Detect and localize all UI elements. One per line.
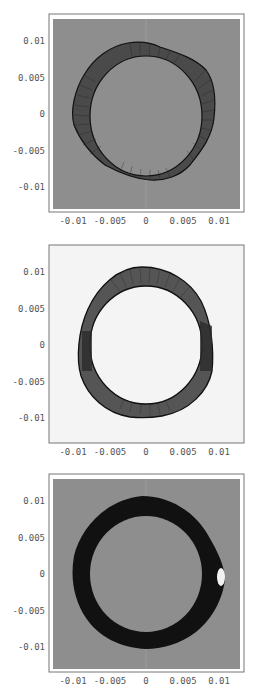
contour-plot-1: 0.01 0.005 0 -0.005 -0.01 -0.01 -0.005 0… (0, 0, 257, 230)
svg-text:0.005: 0.005 (18, 533, 45, 543)
svg-text:0.005: 0.005 (169, 676, 196, 686)
svg-text:0: 0 (143, 676, 148, 686)
ring-inner (90, 286, 202, 404)
svg-text:0.005: 0.005 (169, 447, 196, 457)
svg-text:0.01: 0.01 (208, 216, 230, 226)
svg-text:0.01: 0.01 (208, 676, 230, 686)
svg-text:0: 0 (40, 569, 45, 579)
x-axis-ticks: -0.01 -0.005 0 0.005 0.01 (59, 676, 229, 686)
svg-text:0: 0 (40, 109, 45, 119)
svg-text:-0.005: -0.005 (12, 146, 45, 156)
svg-text:-0.01: -0.01 (18, 182, 45, 192)
svg-text:0: 0 (40, 340, 45, 350)
svg-text:-0.01: -0.01 (59, 447, 86, 457)
svg-text:-0.005: -0.005 (94, 216, 127, 226)
svg-text:0.01: 0.01 (23, 496, 45, 506)
svg-text:-0.01: -0.01 (59, 216, 86, 226)
svg-text:-0.01: -0.01 (18, 642, 45, 652)
svg-text:-0.005: -0.005 (94, 447, 127, 457)
y-axis-ticks: 0.01 0.005 0 -0.005 -0.01 (12, 36, 45, 192)
y-axis-ticks: 0.01 0.005 0 -0.005 -0.01 (12, 496, 45, 652)
x-axis-ticks: -0.01 -0.005 0 0.005 0.01 (59, 447, 229, 457)
svg-text:0.01: 0.01 (23, 267, 45, 277)
svg-text:-0.005: -0.005 (12, 606, 45, 616)
y-axis-ticks: 0.01 0.005 0 -0.005 -0.01 (12, 267, 45, 423)
svg-text:0.005: 0.005 (18, 73, 45, 83)
svg-text:0.01: 0.01 (208, 447, 230, 457)
svg-text:0.005: 0.005 (169, 216, 196, 226)
contour-plot-2: 0.01 0.005 0 -0.005 -0.01 -0.01 -0.005 0… (0, 231, 257, 461)
white-spot (217, 568, 225, 586)
contour-plot-3: 0.01 0.005 0 -0.005 -0.01 -0.01 -0.005 0… (0, 460, 257, 690)
x-axis-ticks: -0.01 -0.005 0 0.005 0.01 (59, 216, 229, 226)
svg-text:0.005: 0.005 (18, 304, 45, 314)
ring-inner (90, 56, 202, 176)
svg-text:-0.005: -0.005 (94, 676, 127, 686)
svg-text:0.01: 0.01 (23, 36, 45, 46)
svg-text:-0.005: -0.005 (12, 377, 45, 387)
svg-text:-0.01: -0.01 (59, 676, 86, 686)
svg-text:0: 0 (143, 447, 148, 457)
svg-text:0: 0 (143, 216, 148, 226)
svg-text:-0.01: -0.01 (18, 413, 45, 423)
ring-inner (90, 516, 202, 632)
